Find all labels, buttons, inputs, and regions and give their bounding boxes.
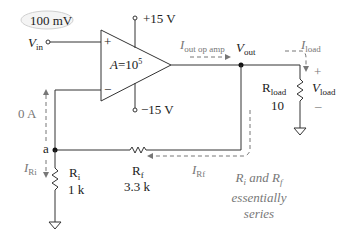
iout-subscript: out op amp (184, 44, 225, 54)
rload-value: 10 (271, 99, 284, 112)
rload-name: R (262, 80, 271, 95)
iload-subscript: load (305, 44, 321, 54)
ri-resistor (52, 168, 58, 190)
irf-label: IRf (192, 163, 205, 179)
ri-value: 1 k (68, 183, 84, 196)
vload-minus: – (315, 99, 322, 112)
ri-ground-icon (49, 222, 61, 229)
series-note-line1: Ri and Rf (219, 170, 299, 190)
vout-subscript: out (244, 47, 256, 57)
vload-plus: + (314, 65, 321, 78)
rload-label: Rload (262, 81, 286, 97)
iout-label: Iout op amp (180, 38, 225, 54)
vin-terminal (46, 40, 50, 44)
series-note: Ri and Rf essentially series (219, 170, 299, 222)
circuit-schematic (0, 0, 352, 240)
vplus-terminal (133, 16, 137, 20)
note-and: and (246, 170, 272, 185)
note-rf: R (272, 170, 280, 185)
iri-arrowhead-icon (43, 172, 49, 178)
series-note-line3: series (219, 206, 299, 222)
irf-arrowhead-icon (147, 153, 153, 159)
opamp-gain-label: A=105 (110, 58, 142, 71)
output-wire (171, 65, 300, 79)
ri-name: R (69, 165, 78, 180)
vout-symbol: V (236, 40, 244, 55)
rf-value: 3.3 k (124, 180, 150, 193)
inverting-input-wire (55, 90, 101, 150)
vload-symbol: V (312, 80, 320, 95)
input-value-label: 100 mV (30, 14, 72, 27)
rf-resistor (130, 147, 146, 153)
note-rf-sub: f (280, 177, 283, 187)
rload-subscript: load (271, 87, 287, 97)
vin-symbol: V (28, 35, 36, 50)
zero-amp-label: 0 A (18, 107, 36, 120)
ri-label: Ri (69, 166, 80, 182)
zero-amp-arrowhead-icon (43, 89, 49, 95)
vout-label: Vout (236, 41, 255, 57)
rload-resistor (297, 79, 303, 101)
irf-subscript: Rf (196, 169, 205, 179)
rf-name: R (132, 163, 141, 178)
series-note-line2: essentially (219, 190, 299, 206)
rload-ground-icon (294, 128, 306, 135)
iri-subscript: Ri (28, 167, 37, 177)
opamp-plus-label: + (104, 35, 111, 48)
vload-subscript: load (320, 87, 336, 97)
vminus-label: −15 V (141, 103, 174, 116)
rf-label: Rf (132, 164, 144, 180)
vin-label: Vin (28, 36, 43, 52)
iload-label: Iload (301, 38, 321, 54)
ri-subscript: i (78, 172, 81, 182)
opamp-minus-label: − (104, 83, 111, 96)
vin-subscript: in (36, 42, 43, 52)
gain-eq: =10 (118, 57, 138, 72)
vminus-terminal (133, 108, 137, 112)
iri-label: IRi (24, 161, 37, 177)
iout-arrowhead-icon (225, 54, 231, 60)
iload-arrowhead-icon (303, 66, 309, 72)
vload-label: Vload (312, 81, 335, 97)
node-a-label: a (43, 142, 49, 155)
vplus-label: +15 V (143, 12, 176, 25)
gain-symbol: A (110, 57, 118, 72)
gain-exponent: 5 (138, 57, 142, 66)
